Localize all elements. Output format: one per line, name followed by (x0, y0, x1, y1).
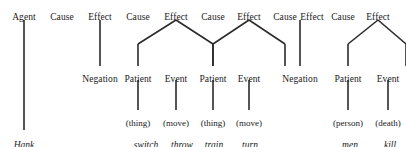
role-node-3: Patient (199, 74, 226, 85)
tree-edge-effect2-to-patient-left (138, 20, 176, 44)
concept-node-5: (death) (375, 118, 400, 129)
word-node-2: throw (171, 140, 193, 147)
tree-edge-effect3-to-event-right (249, 20, 285, 44)
predicate-node-9: Cause (331, 12, 355, 23)
concept-node-3: (move) (236, 118, 262, 129)
tree-edge-effect3-to-patient-left (213, 20, 249, 44)
role-node-4: Event (238, 74, 261, 85)
predicate-node-2: Effect (88, 12, 112, 23)
word-node-0: Hank (14, 140, 35, 147)
predicate-node-5: Cause (201, 12, 225, 23)
concept-node-4: (person) (333, 118, 363, 129)
word-node-1: switch (134, 140, 158, 147)
predicate-node-4: Effect (164, 12, 188, 23)
predicate-node-6: Effect (237, 12, 261, 23)
role-node-5: Negation (282, 74, 318, 85)
role-node-1: Patient (124, 74, 151, 85)
tree-edge-effect5-to-event-right (378, 20, 406, 44)
word-node-6: kill (384, 140, 396, 147)
word-node-4: turn (242, 140, 258, 147)
predicate-node-0: Agent (12, 12, 36, 23)
predicate-node-7: Cause (273, 12, 297, 23)
predicate-node-8: Effect (300, 12, 324, 23)
role-node-6: Patient (334, 74, 361, 85)
concept-node-1: (move) (163, 118, 189, 129)
predicate-node-1: Cause (50, 12, 74, 23)
tree-edge-effect5-to-patient-left (348, 20, 378, 44)
semantic-parse-tree-diagram: AgentCauseEffectCauseEffectCauseEffectCa… (0, 0, 406, 147)
role-node-7: Event (377, 74, 400, 85)
predicate-node-3: Cause (126, 12, 150, 23)
concept-node-2: (thing) (201, 118, 226, 129)
word-node-5: men (342, 140, 358, 147)
word-node-3: train (205, 140, 223, 147)
role-node-0: Negation (82, 74, 118, 85)
tree-edge-effect2-to-event-right (176, 20, 213, 44)
concept-node-0: (thing) (126, 118, 151, 129)
predicate-node-10: Effect (366, 12, 390, 23)
role-node-2: Event (165, 74, 188, 85)
